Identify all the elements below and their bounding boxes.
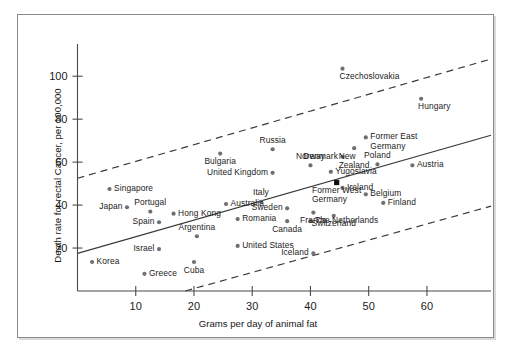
- data-point[interactable]: [157, 247, 161, 251]
- data-point[interactable]: [340, 67, 344, 71]
- point-label: Japan: [99, 202, 122, 211]
- data-point[interactable]: [171, 212, 175, 216]
- data-point[interactable]: [224, 202, 228, 206]
- point-label: Czechoslovakia: [339, 72, 399, 81]
- data-point[interactable]: [381, 201, 385, 205]
- data-point[interactable]: [271, 147, 275, 151]
- point-label: Italy: [253, 188, 269, 197]
- x-tick-label: 40: [304, 300, 316, 312]
- data-point[interactable]: [308, 163, 312, 167]
- data-point[interactable]: [195, 234, 199, 238]
- point-label: Bulgaria: [204, 157, 236, 166]
- point-label: Canada: [272, 225, 302, 234]
- point-label: Denmark: [303, 152, 338, 161]
- point-label: Romania: [242, 214, 276, 223]
- data-point[interactable]: [352, 146, 356, 150]
- data-point[interactable]: [107, 187, 111, 191]
- y-axis-title: Death rate for rectal Cancer, per 100,00…: [52, 51, 63, 301]
- point-label: Greece: [149, 269, 177, 278]
- point-label: Hong Kong: [178, 209, 221, 218]
- data-point[interactable]: [148, 209, 152, 213]
- point-label: Iceland: [281, 248, 309, 257]
- data-point[interactable]: [419, 97, 423, 101]
- x-tick-label: 60: [421, 300, 433, 312]
- data-point[interactable]: [90, 260, 94, 264]
- point-label: Spain: [133, 217, 155, 226]
- data-point[interactable]: [311, 251, 315, 255]
- data-point[interactable]: [285, 206, 289, 210]
- point-label: Portugal: [134, 198, 166, 207]
- data-point[interactable]: [218, 151, 222, 155]
- point-label: Korea: [97, 257, 120, 266]
- point-label: Former East Germany: [370, 132, 417, 151]
- point-label: Hungary: [418, 102, 450, 111]
- point-label: Finland: [388, 198, 416, 207]
- point-label: United Kingdom: [207, 168, 268, 177]
- point-label: Poland: [364, 151, 391, 160]
- data-point[interactable]: [236, 217, 240, 221]
- plot-canvas: 20406080100102030405060: [0, 0, 516, 362]
- x-axis-title: Grams per day of animal fat: [0, 318, 516, 329]
- point-label: Israel: [133, 244, 154, 253]
- x-tick-label: 20: [188, 300, 200, 312]
- point-label: Switzerland: [312, 219, 356, 228]
- data-point[interactable]: [142, 272, 146, 276]
- x-tick-label: 50: [363, 300, 375, 312]
- data-point[interactable]: [125, 205, 129, 209]
- y-axis-title-wrapper: Death rate for rectal Cancer, per 100,00…: [30, 20, 44, 290]
- point-label: Argentina: [179, 223, 216, 232]
- x-tick-label: 30: [246, 300, 258, 312]
- data-point[interactable]: [364, 135, 368, 139]
- data-point[interactable]: [364, 192, 368, 196]
- data-point[interactable]: [329, 170, 333, 174]
- point-label: Austria: [417, 160, 444, 169]
- point-label: Singapore: [114, 184, 153, 193]
- data-point[interactable]: [311, 211, 315, 215]
- data-point[interactable]: [192, 260, 196, 264]
- point-label: Cuba: [184, 266, 204, 275]
- x-tick-label: 10: [130, 300, 142, 312]
- point-label: Sweden: [252, 203, 283, 212]
- data-point[interactable]: [157, 220, 161, 224]
- data-point[interactable]: [271, 171, 275, 175]
- scatter-plot: 20406080100102030405060 KoreaJapanSingap…: [0, 0, 516, 362]
- data-point[interactable]: [285, 219, 289, 223]
- point-label: Russia: [259, 136, 285, 145]
- data-point[interactable]: [236, 244, 240, 248]
- data-point[interactable]: [410, 163, 414, 167]
- regression-line: [78, 135, 492, 253]
